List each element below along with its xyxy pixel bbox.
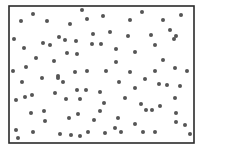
dot	[133, 86, 137, 90]
dot	[34, 56, 38, 60]
dot	[67, 116, 71, 120]
dot	[123, 96, 127, 100]
dot	[42, 109, 46, 113]
dot	[58, 132, 62, 136]
dot	[84, 88, 88, 92]
dot	[140, 10, 144, 14]
dot	[168, 28, 172, 32]
dot	[80, 8, 84, 12]
dot	[101, 14, 105, 18]
dot	[174, 34, 178, 38]
dot	[57, 35, 61, 39]
dot	[188, 132, 192, 136]
dot	[119, 130, 123, 134]
dot	[75, 52, 79, 56]
dot	[23, 95, 27, 99]
dot	[75, 88, 79, 92]
dot	[113, 126, 117, 130]
dot	[19, 19, 23, 23]
dot	[153, 43, 157, 47]
dot	[56, 76, 60, 80]
dot	[63, 38, 67, 42]
dot	[165, 83, 169, 87]
dot	[150, 108, 154, 112]
dot	[158, 104, 162, 108]
dot	[99, 42, 103, 46]
dot	[64, 97, 68, 101]
dot	[20, 80, 24, 84]
dot	[78, 97, 82, 101]
dot	[178, 84, 182, 88]
dot	[22, 46, 26, 50]
dot	[102, 101, 106, 105]
dot	[161, 18, 165, 22]
dot	[153, 130, 157, 134]
dot	[173, 66, 177, 70]
dot	[11, 69, 15, 73]
dot	[128, 70, 132, 74]
scatter-figure	[0, 0, 226, 153]
dot	[31, 130, 35, 134]
dot	[41, 41, 45, 45]
frame-border	[9, 6, 194, 143]
dot	[90, 42, 94, 46]
dot	[174, 120, 178, 124]
dot	[85, 17, 89, 21]
dot	[108, 30, 112, 34]
dot	[98, 109, 102, 113]
dot	[53, 91, 57, 95]
dot	[52, 59, 56, 63]
dot	[139, 102, 143, 106]
dot	[24, 65, 28, 69]
dot	[143, 77, 147, 81]
dot	[116, 116, 120, 120]
dot	[86, 130, 90, 134]
dot	[91, 32, 95, 36]
dot	[174, 111, 178, 115]
dot	[144, 108, 148, 112]
dot	[183, 123, 187, 127]
dot	[69, 133, 73, 137]
dot	[141, 130, 145, 134]
dots-group	[11, 8, 192, 140]
dot	[43, 119, 47, 123]
dot	[76, 112, 80, 116]
dot	[149, 33, 153, 37]
dot	[74, 39, 78, 43]
dot	[61, 80, 65, 84]
dot	[128, 18, 132, 22]
dot	[31, 12, 35, 16]
dot	[73, 70, 77, 74]
dot	[153, 69, 157, 73]
dot	[16, 136, 20, 140]
dot	[45, 19, 49, 23]
dot	[126, 34, 130, 38]
dot	[133, 122, 137, 126]
dot	[161, 58, 165, 62]
dot	[173, 96, 177, 100]
dot	[85, 69, 89, 73]
dot	[104, 69, 108, 73]
dot	[98, 90, 102, 94]
dot	[68, 22, 72, 26]
dot	[92, 118, 96, 122]
dot	[114, 47, 118, 51]
dot	[30, 93, 34, 97]
dot	[14, 98, 18, 102]
dot	[114, 60, 118, 64]
dot	[179, 13, 183, 17]
dot	[40, 76, 44, 80]
dot	[133, 50, 137, 54]
dot	[117, 80, 121, 84]
dot	[65, 51, 69, 55]
dot	[14, 128, 18, 132]
dot	[157, 82, 161, 86]
dot	[78, 134, 82, 138]
dot	[12, 37, 16, 41]
dot	[185, 69, 189, 73]
dot	[48, 43, 52, 47]
dot	[103, 131, 107, 135]
dot	[29, 111, 33, 115]
